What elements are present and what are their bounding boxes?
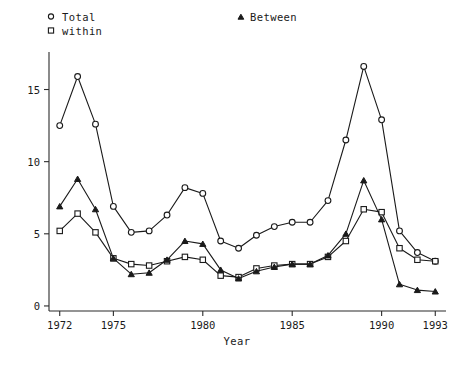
data-point-square xyxy=(182,254,187,259)
data-point-square xyxy=(361,207,366,212)
data-point-square xyxy=(200,257,205,262)
data-point-square xyxy=(146,263,151,268)
data-point-circle xyxy=(75,74,81,80)
data-point-square xyxy=(75,211,80,216)
data-point-square xyxy=(218,273,223,278)
data-point-circle xyxy=(128,229,134,235)
square-marker-icon xyxy=(48,28,53,33)
data-point-square xyxy=(343,238,348,243)
data-point-circle xyxy=(93,121,99,127)
x-tick-label: 1975 xyxy=(101,319,126,331)
data-point-square xyxy=(129,261,134,266)
data-point-circle xyxy=(236,245,242,251)
data-point-circle xyxy=(218,238,224,244)
y-tick-label: 15 xyxy=(27,84,40,96)
data-point-square xyxy=(415,257,420,262)
data-point-square xyxy=(57,228,62,233)
data-point-circle xyxy=(57,123,63,129)
x-tick-label: 1972 xyxy=(47,319,72,331)
data-point-circle xyxy=(289,219,295,225)
x-tick-label: 1985 xyxy=(280,319,305,331)
chart-background xyxy=(0,0,456,367)
data-point-circle xyxy=(325,198,331,204)
y-tick-label: 5 xyxy=(34,228,40,240)
data-point-circle xyxy=(200,191,206,197)
x-axis-title: Year xyxy=(224,335,251,347)
circle-marker-icon xyxy=(48,14,53,19)
y-tick-label: 10 xyxy=(27,156,40,168)
x-tick-label: 1990 xyxy=(369,319,394,331)
data-point-square xyxy=(93,230,98,235)
data-point-square xyxy=(433,259,438,264)
data-point-circle xyxy=(361,64,367,70)
data-point-circle xyxy=(307,219,313,225)
legend-label-between: Between xyxy=(250,11,297,23)
data-point-circle xyxy=(164,212,170,218)
data-point-circle xyxy=(254,232,260,238)
x-tick-label: 1993 xyxy=(423,319,448,331)
legend-label-total: Total xyxy=(62,11,96,23)
legend-label-within: within xyxy=(62,25,102,37)
data-point-circle xyxy=(343,137,349,143)
data-point-circle xyxy=(414,250,420,256)
x-tick-label: 1980 xyxy=(190,319,215,331)
data-point-circle xyxy=(110,203,116,209)
y-tick-label: 0 xyxy=(34,300,40,312)
data-point-circle xyxy=(271,224,277,230)
data-point-square xyxy=(397,246,402,251)
data-point-circle xyxy=(146,228,152,234)
line-chart: Total within Between 051015 197219751980… xyxy=(0,0,456,367)
data-point-circle xyxy=(379,117,385,123)
data-point-circle xyxy=(397,228,403,234)
data-point-circle xyxy=(182,185,188,191)
